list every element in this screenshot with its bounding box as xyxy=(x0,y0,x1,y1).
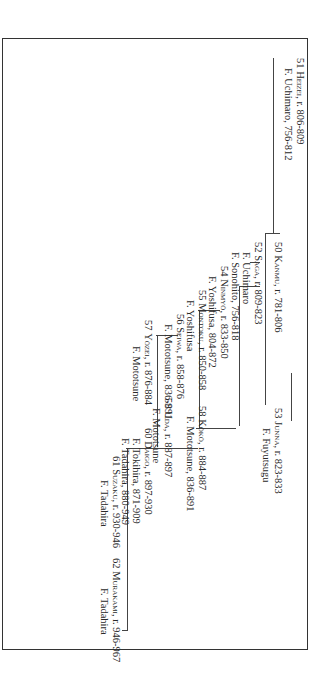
emperor-node-suzaku: 61 Suzaku, r. 930-946 F. Tadahira xyxy=(99,456,122,548)
emperor-node-ninmyo: 54 Ninmyō, r. 833-850 F. Yoshifusa, 804-… xyxy=(207,266,230,368)
connector xyxy=(291,373,292,421)
connector xyxy=(266,233,280,234)
emperor-node-koko: 58 Kōkō, r. 884-887 F. Mototsune, 836-89… xyxy=(185,406,208,511)
connector xyxy=(265,233,266,405)
connector xyxy=(127,520,128,630)
emperor-node-heizei: 51 Heizei, r. 806-809 F. Uchimaro, 756-8… xyxy=(283,58,306,160)
emperor-node-yozei: 57 Yōzei, r. 876-884 F. Mototsune xyxy=(131,320,154,405)
connector xyxy=(122,630,128,631)
emperor-node-kanmu: 50 Kanmu, r. 781-806 xyxy=(273,242,285,333)
emperor-node-junna: 53 Junna, r. 823-833 F. Fuyutsugu xyxy=(261,408,284,494)
emperor-node-murakami: 62 Murakami, r. 946-967 F. Tadahira xyxy=(99,558,122,662)
emperor-node-uda: 59 Uda, r. 887-897 F. Mototsune xyxy=(151,398,174,477)
connector xyxy=(273,58,274,233)
emperor-node-daigo: 60 Daigo, r. 897-930 F. Tokihira, 871-90… xyxy=(120,428,155,525)
emperor-node-montoku: 55 Montoku, r. 850-858 F. Yoshifusa xyxy=(185,290,208,390)
succession-chart: 50 Kanmu, r. 781-806 51 Heizei, r. 806-8… xyxy=(2,38,308,650)
emperor-node-saga: 52 Saga, r. 809-823 F. Uchimaro F. Sonoh… xyxy=(230,242,265,340)
